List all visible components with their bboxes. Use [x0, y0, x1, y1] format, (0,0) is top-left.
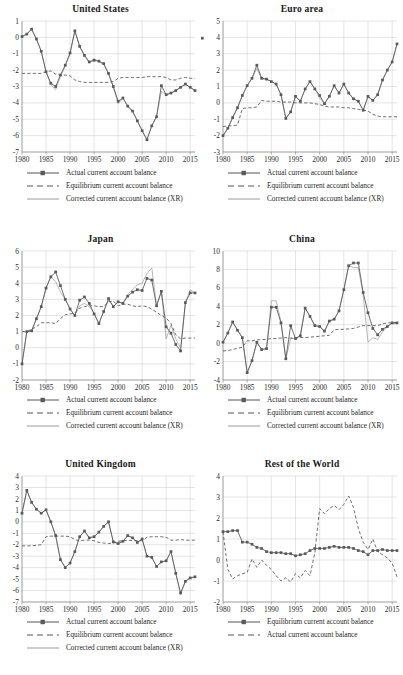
x-tick-label: 1985: [39, 383, 54, 392]
x-tick-label: 1985: [240, 605, 255, 614]
data-point-marker: [328, 95, 331, 98]
series-line: [223, 44, 397, 136]
data-point-marker: [189, 577, 192, 580]
data-point-marker: [30, 501, 33, 504]
data-point-marker: [294, 554, 297, 557]
data-point-marker: [251, 543, 254, 546]
data-point-marker: [64, 566, 67, 569]
data-point-marker: [184, 83, 187, 86]
chart-svg-euro-area: -3-2-10123451980198519901995200020052010…: [201, 17, 403, 167]
data-point-marker: [165, 325, 168, 328]
data-point-marker: [117, 100, 120, 103]
data-point-marker: [280, 551, 283, 554]
data-point-marker: [165, 559, 168, 562]
data-point-marker: [194, 89, 197, 92]
series-line: [22, 268, 195, 364]
legend-label-actual: Actual current account balance: [66, 395, 157, 404]
legend-item-corrected: Corrected current account balance (XR): [201, 192, 403, 205]
plot-japan: -2-1012345619801985199019952000200520102…: [0, 247, 201, 395]
legend-item-actual: Actual current account balance: [0, 615, 201, 628]
data-point-marker: [323, 102, 326, 105]
data-point-marker: [107, 72, 110, 75]
y-tick-label: 5: [216, 17, 220, 26]
plot-euro-area: -3-2-10123451980198519901995200020052010…: [201, 17, 403, 167]
data-point-marker: [270, 551, 273, 554]
x-tick-label: 1995: [87, 383, 102, 392]
y-tick-label: -1: [13, 529, 19, 538]
data-point-marker: [160, 561, 163, 564]
x-tick-label: 2010: [361, 383, 376, 392]
series-line: [22, 301, 195, 339]
x-tick-label: 1990: [264, 605, 279, 614]
panel-title-united-kingdom: United Kingdom: [0, 455, 201, 472]
data-point-marker: [25, 33, 28, 36]
x-tick-label: 2000: [111, 605, 126, 614]
data-point-marker: [246, 84, 249, 87]
plot-united-kingdom: -7-6-5-4-3-2-101234198019851990199520002…: [0, 472, 201, 617]
x-tick-label: 1980: [216, 383, 231, 392]
data-point-marker: [328, 320, 331, 323]
chart-svg-united-states: -7-6-5-4-3-2-101198019851990199520002005…: [0, 17, 201, 167]
data-point-marker: [299, 334, 302, 337]
data-point-marker: [396, 549, 399, 552]
data-point-marker: [21, 35, 24, 38]
data-point-marker: [347, 92, 350, 95]
data-point-marker: [313, 324, 316, 327]
data-point-marker: [309, 80, 312, 83]
data-point-marker: [231, 116, 234, 119]
x-tick-label: 2015: [183, 155, 198, 164]
data-point-marker: [30, 329, 33, 332]
data-point-marker: [126, 105, 129, 108]
data-point-marker: [141, 129, 144, 132]
data-point-marker: [83, 530, 86, 533]
legend-key-corrected-icon: [227, 194, 261, 204]
data-point-marker: [386, 69, 389, 72]
data-point-marker: [246, 371, 249, 374]
data-point-marker: [35, 508, 38, 511]
data-point-marker: [141, 289, 144, 292]
data-point-marker: [318, 547, 321, 550]
x-tick-label: 1995: [87, 155, 102, 164]
data-point-marker: [352, 97, 355, 100]
y-tick-label: -6: [13, 131, 19, 140]
data-point-marker: [170, 550, 173, 553]
data-point-marker: [117, 300, 120, 303]
legend-rest-of-the-world: Equilibrium current account balance Actu…: [201, 615, 403, 641]
data-point-marker: [150, 124, 153, 127]
legend-label-corrected: Corrected current account balance (XR): [66, 194, 183, 203]
data-point-marker: [122, 302, 125, 305]
panel-china: China -4-2024681019801985199019952000200…: [201, 230, 403, 455]
data-point-marker: [391, 322, 394, 325]
series-line: [223, 44, 397, 136]
data-point-marker: [69, 308, 72, 311]
legend-key-equilibrium-icon: [227, 408, 261, 418]
data-point-marker: [376, 334, 379, 337]
data-point-marker: [386, 325, 389, 328]
data-point-marker: [226, 332, 229, 335]
data-point-marker: [371, 549, 374, 552]
data-point-marker: [122, 540, 125, 543]
data-point-marker: [371, 99, 374, 102]
legend-japan: Actual current account balance Equilibri…: [0, 393, 201, 432]
data-point-marker: [231, 529, 234, 532]
data-point-marker: [88, 302, 91, 305]
data-point-marker: [88, 61, 91, 64]
data-point-marker: [54, 85, 57, 88]
chart-svg-japan: -2-1012345619801985199019952000200520102…: [0, 247, 201, 395]
legend-key-actual-icon: [227, 395, 261, 405]
y-tick-label: 0: [216, 98, 220, 107]
data-point-marker: [396, 43, 399, 46]
data-point-marker: [189, 292, 192, 295]
panel-japan: Japan -2-1012345619801985199019952000200…: [0, 230, 201, 455]
data-point-marker: [93, 535, 96, 538]
data-point-marker: [45, 287, 48, 290]
data-point-marker: [40, 50, 43, 53]
x-tick-label: 1990: [63, 155, 78, 164]
data-point-marker: [396, 322, 399, 325]
data-point-marker: [304, 307, 307, 310]
data-point-marker: [131, 537, 134, 540]
data-point-marker: [284, 552, 287, 555]
data-point-marker: [131, 291, 134, 294]
data-point-marker: [251, 359, 254, 362]
data-point-marker: [69, 52, 72, 55]
